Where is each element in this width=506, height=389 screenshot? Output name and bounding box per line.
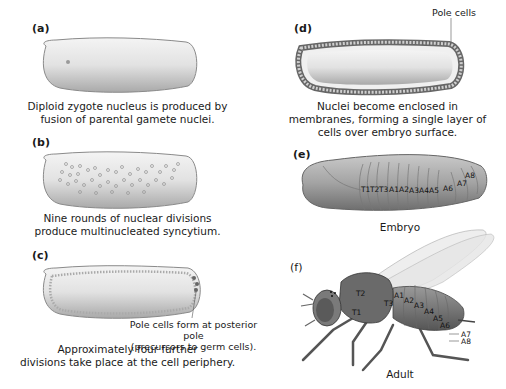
adult-segment-T3: T3 xyxy=(383,299,394,308)
adult-segment-A2: A2 xyxy=(404,296,414,305)
adult-segment-A1: A1 xyxy=(394,291,404,300)
adult-fly-illustration: T2 T1 T3 A1 A2 A3 A4 A5 A6 A7 A8 xyxy=(253,230,506,389)
embryo-segment-A3: A3 xyxy=(409,186,419,195)
peripheral-division-egg-illustration xyxy=(0,0,253,330)
embryo-segment-T2: T2 xyxy=(369,185,380,194)
adult-segment-T2: T2 xyxy=(355,289,366,298)
embryo-segment-A8: A8 xyxy=(465,171,475,180)
segmented-embryo-illustration: T1 T2 T3 A1 A2 A3 A4 A5 A6 A7 A8 xyxy=(253,120,506,230)
embryo-segment-T3: T3 xyxy=(378,185,389,194)
adult-segment-A6: A6 xyxy=(440,321,450,330)
panel-f-caption: Adult xyxy=(370,368,430,381)
embryo-segment-A6: A6 xyxy=(443,184,453,193)
adult-segment-T1: T1 xyxy=(351,308,362,317)
embryo-segment-A2: A2 xyxy=(399,185,409,194)
panel-c-caption: Approximately four further divisions tak… xyxy=(20,343,235,369)
blastoderm-egg-illustration xyxy=(253,0,506,110)
embryo-segment-A7: A7 xyxy=(457,179,467,188)
embryo-segment-T1: T1 xyxy=(360,185,371,194)
embryo-segment-A5: A5 xyxy=(429,186,439,195)
embryo-segment-A1: A1 xyxy=(389,185,399,194)
adult-segment-A3: A3 xyxy=(414,301,424,310)
embryo-segment-A4: A4 xyxy=(419,186,429,195)
adult-segment-A8: A8 xyxy=(461,337,471,346)
